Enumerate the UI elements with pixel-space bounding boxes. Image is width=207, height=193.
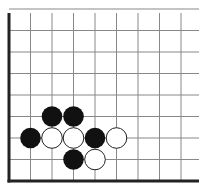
black-stone — [85, 128, 106, 149]
black-stone — [63, 106, 84, 127]
black-stone — [42, 106, 63, 127]
black-stone — [20, 128, 41, 149]
stones-layer — [20, 106, 127, 170]
white-stone — [63, 128, 84, 149]
black-stone — [63, 149, 84, 170]
white-stone — [42, 128, 63, 149]
go-board — [0, 0, 207, 193]
white-stone — [106, 128, 127, 149]
white-stone — [85, 149, 106, 170]
